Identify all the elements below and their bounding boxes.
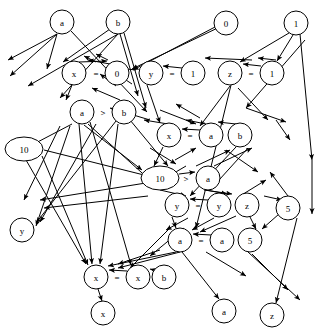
diagram-canvas: ab01x=0y=1z=1a>bx=ab1010>ay=yz5ya=a5x=xb… — [0, 0, 319, 331]
graph-edge — [252, 254, 288, 290]
node-label: 5 — [286, 204, 291, 214]
node-label: a — [178, 236, 182, 246]
operator-label: = — [198, 236, 203, 246]
graph-svg: ab01x=0y=1z=1a>bx=ab1010>ay=yz5ya=a5x=xb… — [0, 0, 319, 331]
graph-edge — [226, 150, 258, 172]
node-label: 1 — [270, 69, 275, 79]
node-label: x — [72, 69, 77, 79]
graph-edge — [262, 214, 279, 229]
graph-edge — [42, 156, 88, 265]
graph-node[interactable]: b — [228, 123, 252, 147]
graph-edge — [218, 122, 236, 124]
node-label: y — [175, 201, 180, 211]
node-label: = — [187, 131, 192, 141]
graph-edge — [182, 252, 219, 299]
node-label: z — [228, 69, 232, 79]
node-label: x — [94, 273, 99, 283]
graph-edge — [147, 85, 160, 123]
graph-node[interactable]: x — [84, 265, 108, 289]
node-label: y — [149, 69, 154, 79]
graph-node[interactable]: x — [62, 61, 86, 85]
graph-node[interactable]: 10 — [5, 137, 43, 161]
graph-edge — [258, 58, 276, 60]
graph-node[interactable]: y — [139, 61, 163, 85]
graph-node[interactable]: x — [157, 123, 181, 147]
graph-node[interactable]: a — [168, 228, 192, 252]
graph-node[interactable]: a — [50, 10, 74, 34]
operator-label: = — [114, 273, 119, 283]
graph-edge — [192, 218, 214, 230]
graph-node[interactable]: z — [235, 193, 259, 217]
node-label: b — [162, 273, 167, 283]
graph-edge — [150, 148, 176, 164]
node-label: a — [220, 236, 224, 246]
node-label: y — [217, 201, 222, 211]
graph-node[interactable]: y — [165, 193, 189, 217]
graph-node[interactable]: a — [196, 166, 220, 190]
graph-node[interactable]: 0 — [214, 11, 238, 35]
operator-label: = — [187, 131, 192, 141]
graph-edge — [240, 33, 289, 62]
graph-edge — [175, 148, 196, 160]
node-label: > — [100, 108, 105, 118]
graph-edge — [109, 270, 127, 271]
node-label: x — [101, 309, 106, 319]
graph-edge — [243, 64, 261, 66]
graph-node[interactable]: y — [207, 193, 231, 217]
graph-node[interactable]: 5 — [276, 196, 300, 220]
graph-node[interactable]: 5 — [238, 228, 262, 252]
graph-node[interactable]: b — [152, 265, 176, 289]
graph-node[interactable]: z — [260, 303, 284, 327]
graph-node[interactable]: 1 — [260, 61, 284, 85]
graph-node[interactable]: a — [212, 299, 236, 323]
graph-edge — [150, 269, 154, 270]
node-label: z — [270, 311, 274, 321]
graph-node[interactable]: 1 — [284, 11, 308, 35]
graph-node[interactable]: x — [91, 301, 115, 325]
node-label: a — [60, 18, 64, 28]
node-label: = — [198, 236, 203, 246]
graph-node[interactable]: 10 — [141, 166, 179, 190]
graph-node[interactable]: a — [70, 100, 94, 124]
graph-node[interactable]: a — [210, 228, 234, 252]
graph-edge — [238, 88, 268, 120]
graph-node[interactable]: y — [10, 218, 34, 242]
node-label: 0 — [224, 19, 229, 29]
graph-node[interactable]: a — [199, 123, 223, 147]
graph-edge — [79, 124, 92, 264]
node-label: 10 — [20, 145, 30, 155]
graph-node[interactable]: 0 — [105, 61, 129, 85]
node-label: = — [169, 69, 174, 79]
node-label: b — [238, 131, 243, 141]
graph-edge — [90, 122, 131, 265]
node-label: 0 — [115, 69, 120, 79]
graph-edge — [176, 104, 200, 118]
graph-node[interactable]: b — [112, 100, 136, 124]
graph-node[interactable]: z — [218, 61, 242, 85]
operator-label: > — [100, 108, 105, 118]
graph-edge — [92, 88, 120, 100]
node-label: 1 — [294, 19, 299, 29]
node-label: = — [93, 69, 98, 79]
operator-label: = — [169, 69, 174, 79]
operator-label: = — [195, 201, 200, 211]
graph-node[interactable]: x — [126, 265, 150, 289]
node-label: = — [195, 201, 200, 211]
graph-edge — [300, 34, 312, 160]
node-label: b — [122, 108, 127, 118]
node-label: a — [222, 307, 226, 317]
graph-edge — [276, 218, 297, 303]
graph-node[interactable]: b — [106, 10, 130, 34]
node-label: 1 — [191, 69, 196, 79]
graph-node[interactable]: 1 — [181, 61, 205, 85]
operator-label: = — [248, 69, 253, 79]
node-label: x — [136, 273, 141, 283]
node-label: z — [245, 201, 249, 211]
graph-edge — [66, 85, 72, 100]
node-label: 5 — [248, 236, 253, 246]
node-label: x — [167, 131, 172, 141]
graph-edge — [26, 160, 86, 264]
graph-edge — [276, 120, 290, 140]
node-label: = — [248, 69, 253, 79]
graph-edge — [196, 150, 230, 166]
